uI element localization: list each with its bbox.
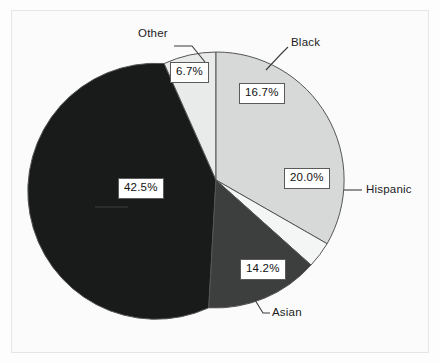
category-label-other: Other bbox=[138, 28, 168, 40]
leader-line-black bbox=[266, 47, 288, 70]
category-label-asian: Asian bbox=[272, 307, 302, 319]
slice-value-hispanic: 20.0% bbox=[284, 168, 330, 189]
slice-value-white: 42.5% bbox=[118, 178, 164, 199]
slice-value-asian: 14.2% bbox=[240, 259, 286, 280]
slice-value-black: 16.7% bbox=[239, 83, 285, 104]
leader-line-asian bbox=[255, 300, 270, 313]
pie-chart-figure: 6.7% 16.7% 20.0% 14.2% 42.5% Other Black… bbox=[0, 0, 440, 363]
slice-value-other: 6.7% bbox=[170, 62, 209, 83]
category-label-black: Black bbox=[291, 37, 320, 49]
category-label-hispanic: Hispanic bbox=[366, 184, 412, 196]
category-label-white: White bbox=[58, 201, 88, 213]
pie-chart-canvas bbox=[0, 0, 440, 363]
